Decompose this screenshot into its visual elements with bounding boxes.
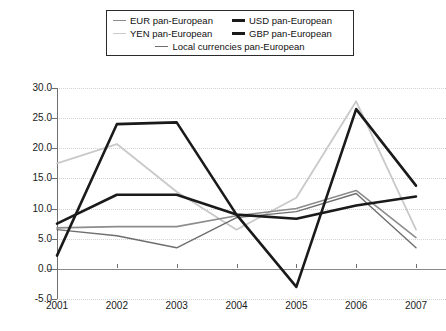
- legend-label: GBP pan-European: [249, 28, 332, 39]
- y-tick-label: 25.0: [18, 113, 52, 123]
- chart-series-layer: [57, 88, 416, 264]
- legend-item-local[interactable]: Local currencies pan-European: [113, 41, 347, 52]
- x-tick-mark: [416, 264, 417, 268]
- legend-swatch-eur-icon: [113, 20, 126, 22]
- x-tick-label: 2002: [106, 300, 128, 311]
- x-tick-mark: [57, 264, 58, 268]
- chart-legend: EUR pan-EuropeanUSD pan-EuropeanYEN pan-…: [106, 10, 354, 56]
- legend-label: USD pan-European: [249, 15, 332, 26]
- x-tick-mark: [117, 264, 118, 268]
- legend-item-yen[interactable]: YEN pan-European: [113, 28, 228, 39]
- legend-item-usd[interactable]: USD pan-European: [232, 15, 347, 26]
- line-chart: EUR pan-EuropeanUSD pan-EuropeanYEN pan-…: [0, 0, 446, 331]
- y-tick-label: 0.0: [18, 264, 52, 274]
- y-tick-label: 20.0: [18, 143, 52, 153]
- x-tick-label: 2006: [345, 300, 367, 311]
- legend-label: EUR pan-European: [130, 15, 213, 26]
- x-tick-label: 2007: [405, 300, 427, 311]
- x-tick-mark: [177, 264, 178, 268]
- y-tick-label: 10.0: [18, 204, 52, 214]
- x-tick-mark: [237, 264, 238, 268]
- legend-label: YEN pan-European: [130, 28, 212, 39]
- x-axis-ticks: [57, 264, 416, 269]
- legend-swatch-local-icon: [155, 46, 168, 47]
- y-tick-label: 30.0: [18, 83, 52, 93]
- legend-swatch-usd-icon: [232, 19, 245, 22]
- y-tick-mark: [52, 299, 57, 300]
- x-tick-mark: [356, 264, 357, 268]
- legend-label: Local currencies pan-European: [172, 41, 304, 52]
- x-tick-label: 2004: [225, 300, 247, 311]
- series-line-local: [57, 194, 416, 248]
- legend-swatch-yen-icon: [113, 33, 126, 35]
- y-tick-label: 15.0: [18, 173, 52, 183]
- x-axis-labels: 2001200220032004200520062007: [57, 300, 416, 314]
- legend-item-eur[interactable]: EUR pan-European: [113, 15, 228, 26]
- legend-swatch-gbp-icon: [232, 32, 245, 35]
- x-tick-label: 2005: [285, 300, 307, 311]
- x-tick-label: 2003: [166, 300, 188, 311]
- x-tick-label: 2001: [46, 300, 68, 311]
- y-axis-labels: 30.025.020.015.010.05.00.0-5.0: [12, 88, 52, 299]
- y-tick-label: 5.0: [18, 234, 52, 244]
- y-tick-mark: [52, 269, 57, 270]
- legend-item-gbp[interactable]: GBP pan-European: [232, 28, 347, 39]
- series-line-yen: [57, 101, 416, 229]
- x-tick-mark: [296, 264, 297, 268]
